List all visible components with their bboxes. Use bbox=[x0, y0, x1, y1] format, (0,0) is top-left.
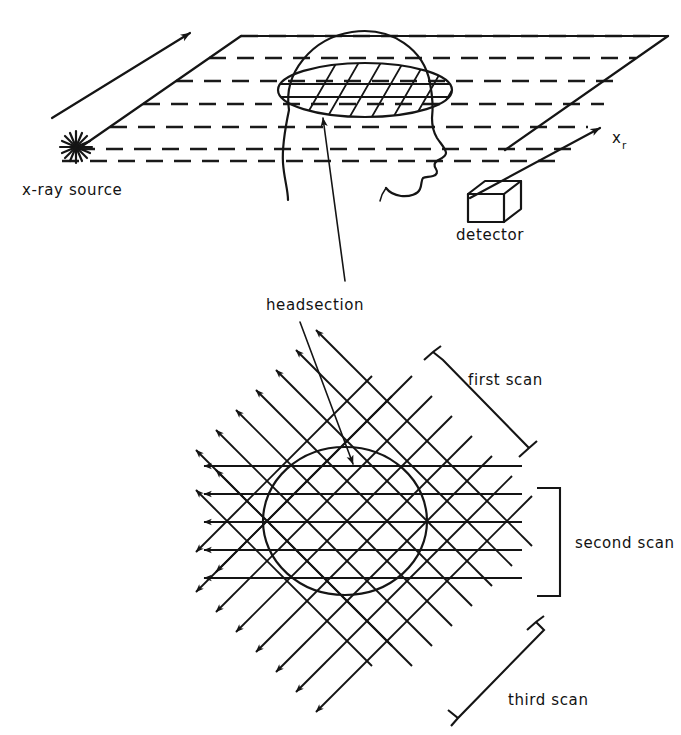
xr-axis-subscript-label: r bbox=[622, 139, 627, 151]
detector-label: detector bbox=[456, 226, 524, 244]
figure-root: x-ray source detector x r headsection bbox=[0, 0, 681, 735]
ct-scan-geometry-diagram: x-ray source detector x r headsection bbox=[0, 0, 681, 735]
x-ray-source-label: x-ray source bbox=[22, 181, 122, 199]
third-scan-label: third scan bbox=[508, 691, 589, 709]
xr-axis-label: x bbox=[612, 129, 621, 147]
headsection-label: headsection bbox=[266, 296, 364, 314]
canvas-background bbox=[0, 0, 681, 735]
first-scan-label: first scan bbox=[468, 371, 543, 389]
second-scan-label: second scan bbox=[575, 534, 675, 552]
x-ray-source-icon bbox=[60, 131, 92, 163]
